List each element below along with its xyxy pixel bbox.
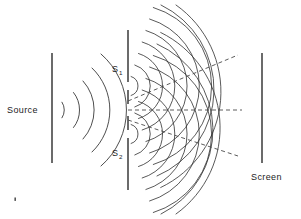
incident-wavefront-4 <box>92 68 110 152</box>
s2-wavefront-5 <box>146 79 187 190</box>
s1-wavefront-2 <box>135 65 150 107</box>
s1-wavefront-5 <box>146 31 187 142</box>
s2-wavefronts <box>131 33 220 215</box>
figure-canvas: Source S 1 S 2 Screen <box>0 0 301 219</box>
s2-wavefront-2 <box>135 113 150 155</box>
incident-wavefront-3 <box>83 81 94 139</box>
screen-label: Screen <box>251 172 282 182</box>
slit-1-label: S <box>112 64 118 74</box>
s1-wavefront-4 <box>142 42 175 130</box>
s1-wavefront-9 <box>161 5 221 188</box>
corner-speck <box>14 198 16 201</box>
s1-wavefront-8 <box>157 5 214 176</box>
s2-wavefront-9 <box>161 33 221 215</box>
incident-wavefront-1 <box>62 102 64 118</box>
s2-wavefront-1 <box>131 125 138 144</box>
double-slit-diagram: Source S 1 S 2 Screen <box>0 0 301 219</box>
slit-2-subscript: 2 <box>119 153 123 160</box>
slit-2-label: S <box>112 148 118 158</box>
s1-wavefront-1 <box>131 77 138 96</box>
slit-1-subscript: 1 <box>119 69 123 76</box>
source-label: Source <box>7 105 38 115</box>
incident-wavefront-2 <box>74 93 80 128</box>
maxima-line-lower <box>128 120 238 156</box>
